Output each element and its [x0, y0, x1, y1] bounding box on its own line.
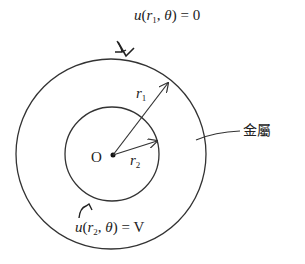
r2-label: r2: [130, 153, 140, 170]
outer-value: 0: [193, 7, 201, 23]
func-u: u: [134, 7, 142, 23]
r1-sub: 1: [142, 93, 147, 103]
outer-boundary-condition: u(r1, θ) = 0: [134, 8, 200, 25]
inner-tick-icon: [79, 204, 92, 218]
inner-boundary-condition: u(r2, θ) = V: [75, 220, 144, 237]
arg-sub: 2: [93, 227, 98, 237]
angle-theta: θ: [164, 7, 171, 23]
arg-sub: 1: [152, 15, 157, 25]
material-label: 金屬: [243, 123, 271, 137]
r1-label: r1: [136, 86, 146, 103]
material-leader-line: [196, 131, 240, 140]
angle-theta: θ: [105, 219, 112, 235]
func-u: u: [75, 219, 83, 235]
outer-tick-icon: [118, 42, 134, 56]
center-label: O: [91, 150, 102, 165]
inner-value: V: [133, 219, 144, 235]
r2-sub: 2: [136, 160, 141, 170]
